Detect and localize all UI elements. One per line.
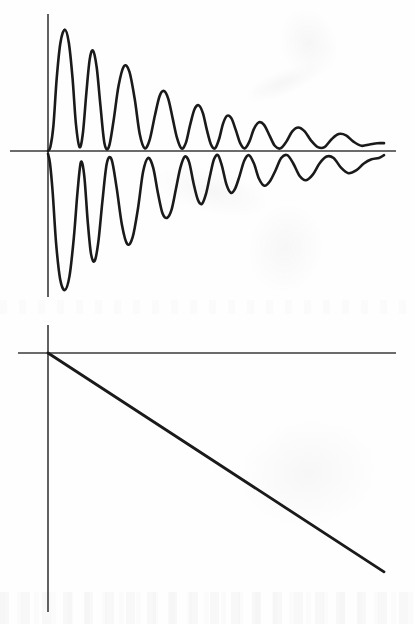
linear-decay-line bbox=[48, 353, 384, 572]
figure-sheet bbox=[0, 0, 415, 624]
lower-chart bbox=[0, 312, 415, 624]
upper-chart bbox=[0, 0, 415, 312]
upper-envelope-curve bbox=[48, 30, 384, 151]
upper-chart-canvas bbox=[0, 0, 415, 312]
lower-envelope-curve bbox=[48, 154, 384, 290]
lower-chart-canvas bbox=[0, 312, 415, 624]
